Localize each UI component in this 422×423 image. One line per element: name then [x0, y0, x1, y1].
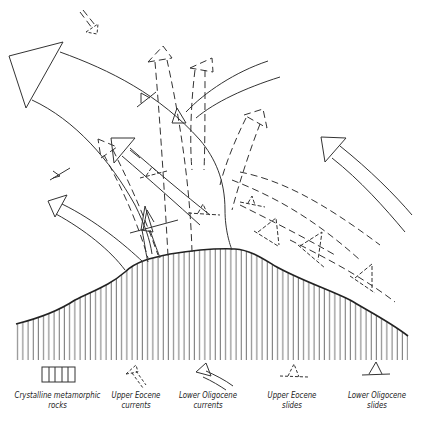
- upper-eocene-current-arrow-top-small: [80, 10, 98, 34]
- legend-label-line: Lower Oligocene: [178, 390, 237, 400]
- legend-symbol-upper-eocene-current: [126, 365, 146, 388]
- legend-label-upper-eocene-currents: Upper Eocene currents: [111, 390, 160, 410]
- geologic-diagram: [0, 0, 422, 423]
- legend-label-line: currents: [178, 400, 237, 410]
- legend-label-line: rocks: [6, 400, 109, 410]
- upper-eocene-current-arrow-right-diagonal: [220, 109, 267, 210]
- legend-label-lower-oligocene-slides: Lower Oligocene slides: [347, 390, 408, 410]
- legend-label-line: Upper Eocene: [267, 390, 316, 400]
- legend-label-line: Upper Eocene: [111, 390, 160, 400]
- lower-oligocene-current-arrow-far-right: [321, 137, 412, 232]
- legend-label-line: slides: [267, 400, 316, 410]
- upper-eocene-slide-2: [188, 204, 220, 215]
- legend-label-crystalline: Crystalline metamorphic rocks: [6, 390, 109, 410]
- legend-symbols: [42, 362, 390, 390]
- legend-label-line: currents: [111, 400, 160, 410]
- crystalline-rock-body: [0, 240, 422, 365]
- lower-oligocene-current-arrow-large: [9, 42, 232, 254]
- lower-oligocene-slide-2: [50, 168, 70, 180]
- upper-eocene-slide-4: [254, 218, 279, 246]
- legend-label-line: Crystalline metamorphic: [6, 390, 109, 400]
- lower-oligocene-current-arrow-right: [111, 138, 210, 225]
- legend-label-upper-eocene-slides: Upper Eocene slides: [267, 390, 316, 410]
- legend-symbol-lower-oligocene-current: [196, 363, 233, 390]
- upper-eocene-current-arrow-tall-left: [148, 46, 192, 256]
- legend-symbol-crystalline: [42, 367, 75, 382]
- legend-symbol-lower-oligocene-slide: [362, 362, 390, 375]
- legend-symbol-upper-eocene-slide: [280, 364, 308, 377]
- upper-eocene-slide-6: [350, 264, 375, 293]
- legend-label-lower-oligocene-currents: Lower Oligocene currents: [178, 390, 237, 410]
- legend-label-line: slides: [347, 400, 408, 410]
- upper-eocene-slide-3: [240, 196, 265, 207]
- lower-oligocene-slide-3: [130, 210, 178, 233]
- legend-label-line: Lower Oligocene: [347, 390, 408, 400]
- upper-eocene-slide-5: [298, 232, 325, 268]
